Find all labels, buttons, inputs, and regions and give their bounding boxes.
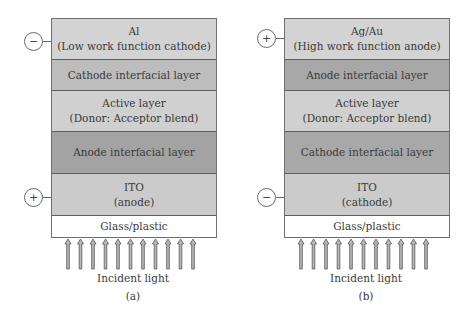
layer-title: Glass/plastic [100,221,168,232]
layer-title: Active layer [102,98,165,109]
layer-glass: Glass/plastic [52,216,216,238]
incident-light-arrows-icon [64,238,204,270]
layer-ito: ITO (anode) [52,174,216,216]
layer-title: ITO [124,182,144,193]
layer-active: Active layer (Donor: Acceptor blend) [52,91,216,132]
layer-glass: Glass/plastic [285,216,449,238]
layer-title: Anode interfacial layer [73,147,195,158]
layer-active: Active layer (Donor: Acceptor blend) [285,91,449,132]
terminal-lead [276,197,284,198]
layer-title: ITO [357,182,377,193]
negative-terminal-icon: − [24,32,43,51]
positive-terminal-icon: + [24,188,43,207]
layer-subtitle: (Donor: Acceptor blend) [70,113,199,124]
layer-title: Anode interfacial layer [306,70,428,81]
layer-title: Al [129,26,140,37]
incident-light-arrows-icon [297,238,437,270]
layer-anode-interfacial: Anode interfacial layer [285,60,449,91]
panel-label-a: (a) [51,290,215,302]
layer-subtitle: (cathode) [342,197,393,208]
layer-title: Cathode interfacial layer [68,70,201,81]
panel-label-b: (b) [284,290,448,302]
incident-light-label: Incident light [51,272,215,284]
layer-cathode-electrode: Al (Low work function cathode) [52,19,216,60]
layer-title: Cathode interfacial layer [301,147,434,158]
layer-cathode-interfacial: Cathode interfacial layer [52,60,216,91]
terminal-lead [43,197,51,198]
layer-subtitle: (Low work function cathode) [57,41,211,52]
incident-light-label: Incident light [284,272,448,284]
terminal-lead [43,41,51,42]
layer-anode-electrode: Ag/Au (High work function anode) [285,19,449,60]
device-stack-a: Al (Low work function cathode) Cathode i… [51,18,217,238]
layer-title: Glass/plastic [333,221,401,232]
layer-title: Active layer [335,98,398,109]
positive-terminal-icon: + [257,29,276,48]
layer-subtitle: (anode) [114,197,154,208]
layer-anode-interfacial: Anode interfacial layer [52,132,216,174]
layer-subtitle: (High work function anode) [293,41,440,52]
negative-terminal-icon: − [257,188,276,207]
layer-subtitle: (Donor: Acceptor blend) [303,113,432,124]
device-stack-b: Ag/Au (High work function anode) Anode i… [284,18,450,238]
layer-ito: ITO (cathode) [285,174,449,216]
layer-title: Ag/Au [351,26,383,37]
terminal-lead [276,38,284,39]
layer-cathode-interfacial: Cathode interfacial layer [285,132,449,174]
